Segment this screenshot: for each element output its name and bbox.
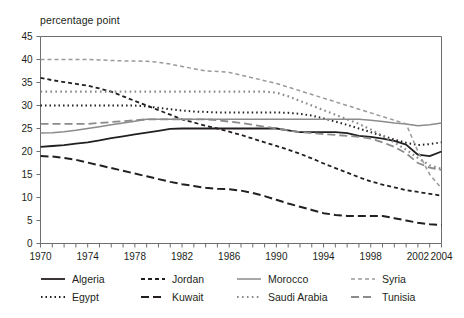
legend-item-tunisia[interactable]: Tunisia [350,288,415,306]
legend-label: Algeria [72,273,105,285]
series-line-jordan [41,78,442,196]
y-tick-label: 30 [21,100,33,111]
y-tick-label: 15 [21,169,33,180]
y-tick-label: 20 [21,146,33,157]
legend-swatch-jordan-icon [140,274,166,284]
y-tick-label: 5 [27,215,33,226]
legend-label: Jordan [172,273,204,285]
legend-item-algeria[interactable]: Algeria [40,270,105,288]
y-tick-label: 0 [27,238,33,249]
legend-label: Tunisia [382,291,415,303]
y-tick-label: 40 [21,54,33,65]
legend-label: Saudi Arabia [268,291,328,303]
series-line-saudi-arabia [41,92,442,169]
legend-swatch-tunisia-icon [350,292,376,302]
legend-item-kuwait[interactable]: Kuwait [140,288,204,306]
legend-swatch-kuwait-icon [140,292,166,302]
x-tick-label: 2002 [407,251,430,262]
chart-legend: AlgeriaJordanMoroccoSyria EgyptKuwaitSau… [40,270,444,312]
x-tick-label: 1974 [77,251,100,262]
legend-swatch-morocco-icon [236,274,262,284]
x-tick-label: 1978 [124,251,147,262]
x-tick-label: 1994 [312,251,335,262]
legend-label: Kuwait [172,291,204,303]
legend-item-saudi-arabia[interactable]: Saudi Arabia [236,288,328,306]
chart-figure: percentage point 05101520253035404519701… [0,0,464,318]
x-tick-label: 2004 [430,251,453,262]
legend-swatch-algeria-icon [40,274,66,284]
series-line-morocco [41,119,442,133]
x-tick-label: 1990 [265,251,288,262]
legend-item-egypt[interactable]: Egypt [40,288,99,306]
legend-label: Egypt [72,291,99,303]
legend-label: Syria [382,273,406,285]
x-tick-label: 1986 [218,251,241,262]
legend-label: Morocco [268,273,308,285]
legend-swatch-syria-icon [350,274,376,284]
legend-row-2: EgyptKuwaitSaudi ArabiaTunisia [40,288,444,306]
y-tick-label: 10 [21,192,33,203]
y-tick-label: 45 [21,31,33,42]
series-line-kuwait [41,156,442,225]
legend-item-morocco[interactable]: Morocco [236,270,308,288]
y-tick-label: 25 [21,123,33,134]
legend-swatch-egypt-icon [40,292,66,302]
legend-item-syria[interactable]: Syria [350,270,406,288]
legend-swatch-saudi-arabia-icon [236,292,262,302]
legend-row-1: AlgeriaJordanMoroccoSyria [40,270,444,288]
y-tick-label: 35 [21,77,33,88]
legend-item-jordan[interactable]: Jordan [140,270,204,288]
series-line-syria [41,60,442,189]
x-tick-label: 1998 [360,251,383,262]
x-tick-label: 1970 [29,251,52,262]
x-tick-label: 1982 [171,251,194,262]
